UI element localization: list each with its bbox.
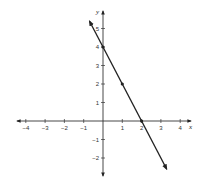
y-axis-label: y — [95, 8, 100, 16]
data-series — [89, 21, 166, 169]
axes — [17, 11, 191, 176]
x-tick-label: −1 — [80, 125, 88, 131]
data-point — [101, 45, 104, 48]
x-axis-label: x — [188, 123, 193, 131]
x-tick-label: 3 — [159, 125, 163, 131]
data-line — [89, 21, 166, 169]
x-tick-label: 2 — [140, 125, 144, 131]
coordinate-plane: −4−3−2−11234−2−112345 x y — [0, 0, 203, 187]
y-tick-label: −2 — [92, 155, 100, 161]
x-tick-label: 4 — [179, 125, 183, 131]
y-tick-label: 3 — [96, 63, 100, 69]
x-tick-label: −4 — [22, 125, 30, 131]
y-tick-label: −1 — [92, 137, 100, 143]
y-tick-label: 5 — [96, 26, 100, 32]
x-tick-label: 1 — [121, 125, 125, 131]
y-tick-label: 1 — [96, 100, 100, 106]
data-point — [140, 119, 143, 122]
y-tick-label: 2 — [96, 81, 100, 87]
data-point — [121, 82, 124, 85]
x-tick-label: −2 — [61, 125, 69, 131]
y-tick-label: 4 — [96, 44, 100, 50]
x-tick-label: −3 — [42, 125, 50, 131]
